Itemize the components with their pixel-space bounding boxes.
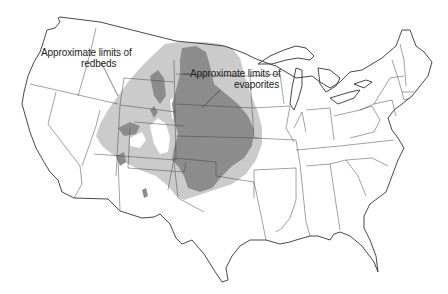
- evaporites-label-line2: evaporites: [190, 79, 281, 90]
- evaporites-label: Approximate limits of evaporites: [190, 68, 281, 90]
- lake-erie: [330, 90, 360, 104]
- redbeds-label-line2: redbeds: [41, 58, 132, 69]
- lake-ontario: [354, 80, 372, 88]
- redbeds-label: Approximate limits of redbeds: [41, 47, 132, 69]
- lake-michigan: [290, 68, 302, 110]
- evaporites-lobe: [142, 188, 148, 198]
- evaporites-label-line1: Approximate limits of: [190, 68, 281, 79]
- us-map: [0, 0, 448, 294]
- lake-huron: [318, 68, 340, 92]
- redbeds-label-line1: Approximate limits of: [41, 47, 132, 58]
- lake-superior: [258, 46, 314, 64]
